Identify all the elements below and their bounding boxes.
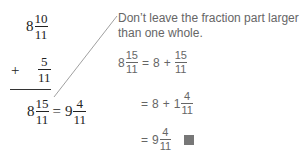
note-line-2: than one whole.: [118, 26, 299, 41]
step-2: = 8 + 1 4 11: [141, 91, 193, 116]
addend-1-fraction: 10 11: [35, 12, 48, 41]
note-line-1: Don’t leave the fraction part larger: [118, 11, 299, 26]
step-1-lhs-fraction: 15 11: [126, 50, 138, 75]
callout-note: Don’t leave the fraction part larger tha…: [118, 11, 299, 41]
addend-1-whole: 8: [26, 18, 34, 35]
step-1-rhs-fraction: 15 11: [175, 50, 187, 75]
addend-2-fraction: 5 11: [38, 55, 51, 84]
sum-rule-line: [10, 89, 51, 90]
simplified-fraction: 4 11: [73, 97, 86, 126]
step-3: = 9 4 11: [141, 127, 194, 152]
step-1: 8 15 11 = 8 + 15 11: [118, 50, 187, 75]
sum-result: 8 15 11 = 9 4 11: [27, 97, 86, 126]
plus-sign: +: [11, 62, 19, 79]
end-of-solution-square-icon: [184, 135, 194, 145]
step-3-fraction: 4 11: [160, 127, 171, 152]
addend-2: 5 11: [38, 55, 51, 84]
sum-fraction: 15 11: [36, 97, 49, 126]
step-2-fraction: 4 11: [181, 91, 192, 116]
addend-1: 8 10 11: [26, 12, 48, 41]
